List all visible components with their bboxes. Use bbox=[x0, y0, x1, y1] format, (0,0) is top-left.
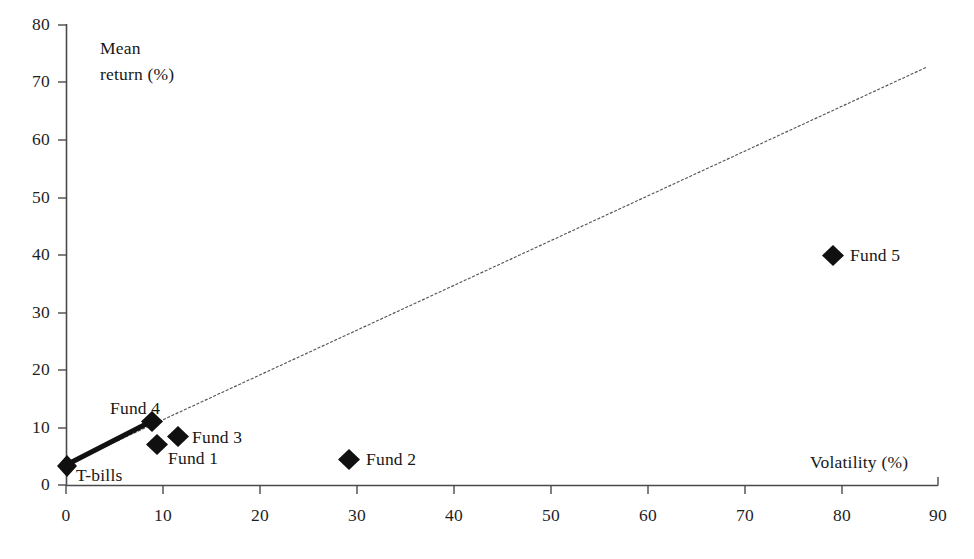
y-tick-label-20: 20 bbox=[10, 359, 50, 380]
point-label-fund4: Fund 4 bbox=[110, 398, 160, 419]
point-label-fund5: Fund 5 bbox=[850, 245, 900, 266]
y-tick-label-40: 40 bbox=[10, 244, 50, 265]
x-tick-label-50: 50 bbox=[531, 505, 571, 526]
marker-fund5 bbox=[822, 245, 844, 266]
data-markers bbox=[57, 245, 844, 477]
x-tick-label-90: 90 bbox=[918, 505, 958, 526]
capital-allocation-line bbox=[68, 421, 152, 464]
y-tick-label-50: 50 bbox=[10, 187, 50, 208]
x-tick-label-70: 70 bbox=[725, 505, 765, 526]
y-tick-label-30: 30 bbox=[10, 302, 50, 323]
y-tick-label-60: 60 bbox=[10, 129, 50, 150]
scatter-chart: 80 70 60 50 40 30 20 10 0 0 10 20 30 40 … bbox=[0, 0, 974, 559]
y-axis-title-line1: Mean bbox=[100, 36, 141, 61]
marker-fund3 bbox=[167, 426, 189, 447]
x-tick-label-80: 80 bbox=[822, 505, 862, 526]
point-label-fund3: Fund 3 bbox=[192, 427, 242, 448]
x-tick-label-60: 60 bbox=[628, 505, 668, 526]
y-axis-ticks bbox=[58, 25, 67, 485]
capital-market-line bbox=[67, 67, 927, 464]
x-tick-label-0: 0 bbox=[46, 505, 86, 526]
point-label-fund2: Fund 2 bbox=[366, 449, 416, 470]
y-tick-label-0: 0 bbox=[10, 474, 50, 495]
x-axis-title: Volatility (%) bbox=[810, 450, 908, 475]
x-tick-label-20: 20 bbox=[240, 505, 280, 526]
y-axis-title-line2: return (%) bbox=[100, 62, 174, 87]
point-label-tbills: T-bills bbox=[76, 465, 122, 486]
x-tick-label-40: 40 bbox=[434, 505, 474, 526]
y-tick-label-80: 80 bbox=[10, 14, 50, 35]
x-tick-label-30: 30 bbox=[337, 505, 377, 526]
point-label-fund1: Fund 1 bbox=[168, 448, 218, 469]
y-tick-label-10: 10 bbox=[10, 417, 50, 438]
x-tick-label-10: 10 bbox=[143, 505, 183, 526]
marker-fund1 bbox=[146, 434, 168, 455]
y-tick-label-70: 70 bbox=[10, 71, 50, 92]
marker-fund2 bbox=[338, 449, 360, 470]
